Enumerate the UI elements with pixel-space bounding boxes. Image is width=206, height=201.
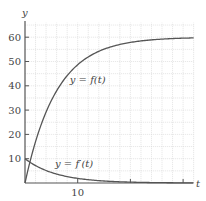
curve-label-f-prime: y = f′(t) <box>54 158 93 169</box>
x-tick-label: 10 <box>71 187 84 198</box>
curve-label-f: y = f(t) <box>69 74 106 85</box>
y-tick-label: 30 <box>8 105 21 116</box>
y-axis-label: y <box>21 7 28 18</box>
chart: 10203040506010 y t y = f(t) y = f′(t) <box>0 0 206 201</box>
y-tick-label: 50 <box>8 56 21 67</box>
x-axis-label: t <box>196 178 201 189</box>
y-tick-label: 20 <box>8 129 21 140</box>
y-tick-label: 60 <box>8 32 21 43</box>
ticks: 10203040506010 <box>8 32 183 198</box>
y-tick-label: 40 <box>8 80 21 91</box>
y-tick-label: 10 <box>8 153 21 164</box>
